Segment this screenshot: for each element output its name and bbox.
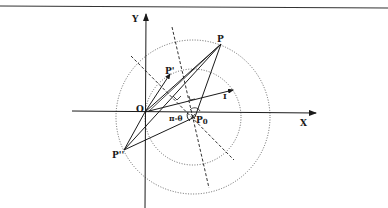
top-rule bbox=[0, 6, 388, 8]
point-p-prime-label: P' bbox=[165, 66, 175, 76]
vector-o-i bbox=[145, 90, 233, 112]
point-p0-subscript: 0 bbox=[203, 117, 208, 126]
angle-label: π-θ bbox=[169, 114, 183, 123]
point-p-double-prime-label: P'' bbox=[112, 150, 124, 160]
line-pdd-p0 bbox=[124, 117, 195, 150]
x-axis bbox=[72, 111, 316, 113]
point-p0-label: P0 bbox=[196, 115, 208, 126]
geometry-figure: Y X O P P' I P'' π-θ P0 bbox=[0, 0, 388, 208]
x-axis-label: X bbox=[300, 118, 307, 128]
line-p-p0 bbox=[195, 44, 221, 117]
point-p-label: P bbox=[217, 34, 224, 44]
right-angle-mark-2 bbox=[189, 96, 195, 100]
origin-label: O bbox=[136, 104, 144, 114]
point-i-label: I bbox=[223, 91, 227, 101]
y-axis-label: Y bbox=[131, 14, 139, 24]
dashed-bisector-1 bbox=[172, 27, 209, 188]
